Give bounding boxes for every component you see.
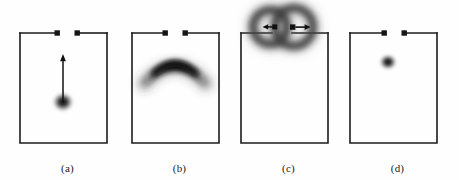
panel-c-caption: (c) [231,162,346,174]
panel-b-caption: (b) [122,162,237,174]
panel-b-diagram [122,0,237,150]
panel-a-caption: (a) [10,162,125,174]
left-terminal-icon [55,30,60,35]
figure-root: (a) [0,0,459,180]
left-terminal-icon [382,30,387,35]
panel-a-stage [10,0,125,150]
panel-c-stage [231,0,346,150]
density-blob [379,54,398,71]
right-terminal-icon [183,30,188,35]
panel-c-diagram [231,0,346,150]
left-terminal-icon [163,30,168,35]
left-ring-terminal-icon [272,24,277,29]
cell-outline-d [350,33,437,143]
panel-d-caption: (d) [340,162,455,174]
right-terminal-icon [75,30,80,35]
panel-d: (d) [340,0,455,180]
panel-d-stage [340,0,455,150]
panel-d-diagram [340,0,455,150]
panel-b: (b) [122,0,237,180]
right-terminal-icon [402,30,407,35]
panel-a: (a) [10,0,125,180]
right-ring-terminal-icon [290,24,295,29]
panel-c: (c) [231,0,346,180]
panel-b-stage [122,0,237,150]
panel-a-diagram [10,0,125,150]
